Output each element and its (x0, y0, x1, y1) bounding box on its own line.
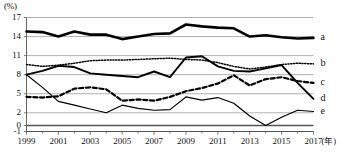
series-label-c: c (321, 77, 333, 87)
x-axis-unit-label: (年) (322, 137, 337, 146)
x-tick-label: 2005 (105, 137, 139, 146)
y-tick-label: 2 (3, 108, 21, 117)
y-tick-label: 8 (3, 70, 21, 79)
x-tick-label: 2015 (265, 137, 299, 146)
x-tick-label: 2009 (169, 137, 203, 146)
y-tick-label: 14 (3, 32, 21, 41)
x-tick-label: 1999 (10, 137, 44, 146)
line-chart: (%) 1714118520-1 19992001200320052007200… (0, 0, 346, 152)
y-tick-label: 5 (3, 89, 21, 98)
x-tick-label: 2007 (137, 137, 171, 146)
series-line-e (27, 75, 314, 126)
series-label-a: a (321, 32, 333, 42)
y-tick-label: 17 (3, 13, 21, 22)
x-tick-label: 2013 (233, 137, 267, 146)
x-tick-label: 2011 (201, 137, 235, 146)
chart-plot-area (0, 0, 346, 152)
series-label-b: b (321, 58, 333, 68)
series-label-d: d (321, 93, 333, 103)
series-line-c (27, 75, 314, 100)
series-label-e: e (321, 106, 333, 116)
y-tick-label: -1 (3, 127, 21, 136)
x-tick-label: 2003 (73, 137, 107, 146)
y-tick-label: 11 (3, 51, 21, 60)
x-tick-label: 2001 (41, 137, 75, 146)
